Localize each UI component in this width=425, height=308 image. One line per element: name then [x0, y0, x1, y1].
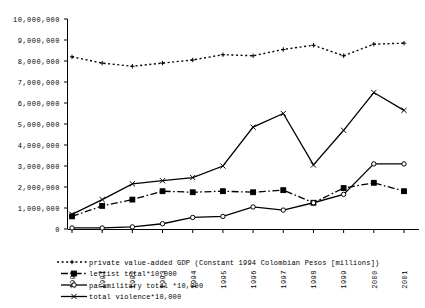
legend-label: private value-added GDP (Constant 1994 C…: [89, 259, 379, 267]
y-tick-label: 3,000,000: [18, 163, 60, 171]
y-tick-label: 6,000,000: [18, 100, 60, 108]
legend-item-leftist: leftist total*10,000: [61, 270, 177, 278]
y-tick-label: 7,000,000: [18, 79, 60, 87]
y-tick-label: 5,000,000: [18, 121, 60, 129]
data-point-marker: [401, 108, 406, 113]
data-point-marker: [72, 283, 76, 287]
series-leftist: [70, 180, 407, 218]
series-line: [72, 164, 404, 228]
data-point-marker: [281, 208, 285, 212]
data-point-marker: [281, 47, 285, 51]
data-point-marker: [311, 162, 316, 167]
data-point-marker: [72, 271, 77, 276]
x-tick-label: 1997: [280, 270, 288, 289]
data-point-marker: [160, 189, 165, 194]
data-point-marker: [311, 43, 315, 47]
y-tick-label: 0: [55, 226, 60, 234]
x-tick-label: 2000: [371, 270, 379, 289]
y-axis-ticks: [64, 19, 68, 229]
data-point-marker: [371, 90, 376, 95]
y-tick-label: 8,000,000: [18, 58, 60, 66]
data-point-marker: [70, 55, 74, 59]
data-point-marker: [341, 192, 345, 196]
data-point-marker: [191, 215, 195, 219]
data-point-marker: [251, 54, 255, 58]
data-point-marker: [371, 180, 376, 185]
legend-item-violence: total violence*10,000: [61, 293, 181, 301]
y-tick-label: 10,000,000: [13, 16, 60, 24]
data-point-marker: [100, 197, 105, 202]
chart-figure: 10,000,0009,000,0008,000,0007,000,0006,0…: [0, 0, 425, 308]
data-point-marker: [372, 42, 376, 46]
data-point-marker: [160, 61, 164, 65]
data-point-marker: [70, 260, 74, 264]
series-paramilitary: [70, 162, 406, 230]
data-point-marker: [190, 190, 195, 195]
y-tick-label: 9,000,000: [18, 37, 60, 45]
data-point-marker: [251, 205, 255, 209]
data-point-marker: [341, 54, 345, 58]
x-tick-label: 2001: [401, 270, 409, 289]
series-line: [72, 93, 404, 215]
data-point-marker: [191, 58, 195, 62]
x-tick-label: 1999: [340, 270, 348, 289]
legend-label: leftist total*10,000: [89, 270, 177, 278]
x-axis-ticks: [72, 230, 404, 234]
data-point-marker: [281, 111, 286, 116]
data-point-marker: [70, 226, 74, 230]
series-gdp: [70, 41, 406, 68]
y-tick-label: 2,000,000: [18, 184, 60, 192]
data-point-marker: [100, 226, 104, 230]
data-point-marker: [281, 188, 286, 193]
data-point-marker: [251, 190, 256, 195]
y-tick-label: 1,000,000: [18, 205, 60, 213]
data-point-marker: [220, 163, 225, 168]
data-point-marker: [160, 222, 164, 226]
data-point-marker: [130, 64, 134, 68]
data-point-marker: [402, 41, 406, 45]
series-violence: [69, 90, 406, 217]
legend-label: paramilitary total *10,000: [89, 282, 203, 290]
data-point-marker: [221, 189, 226, 194]
data-point-marker: [221, 53, 225, 57]
y-tick-label: 4,000,000: [18, 142, 60, 150]
legend-item-gdp: private value-added GDP (Constant 1994 C…: [57, 259, 379, 267]
chart-canvas: 10,000,0009,000,0008,000,0007,000,0006,0…: [0, 0, 425, 308]
legend-item-paramilitary: paramilitary total *10,000: [61, 282, 203, 290]
data-point-marker: [402, 189, 407, 194]
legend-label: total violence*10,000: [89, 293, 181, 301]
x-tick-label: 1996: [250, 270, 258, 289]
series-layer: [69, 41, 406, 230]
data-point-marker: [100, 61, 104, 65]
data-point-marker: [341, 186, 346, 191]
data-point-marker: [341, 128, 346, 133]
x-tick-label: 1998: [310, 270, 318, 289]
data-point-marker: [402, 162, 406, 166]
data-point-marker: [372, 162, 376, 166]
data-point-marker: [221, 214, 225, 218]
data-point-marker: [130, 225, 134, 229]
data-point-marker: [311, 201, 315, 205]
x-tick-label: 1995: [220, 270, 228, 289]
data-point-marker: [100, 204, 105, 209]
data-point-marker: [130, 197, 135, 202]
data-point-marker: [250, 125, 255, 130]
y-axis-labels: 10,000,0009,000,0008,000,0007,000,0006,0…: [13, 16, 60, 234]
series-line: [72, 43, 404, 66]
